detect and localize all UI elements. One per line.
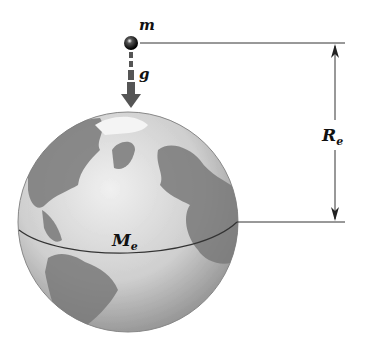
gravity-diagram: Me Re m g	[0, 0, 365, 344]
mass-ball	[124, 36, 138, 50]
mass-label: m	[139, 16, 155, 34]
earth-globe	[18, 112, 238, 332]
gravity-label: g	[139, 65, 150, 83]
gravity-arrow	[121, 52, 141, 108]
radius-label: Re	[321, 125, 343, 148]
